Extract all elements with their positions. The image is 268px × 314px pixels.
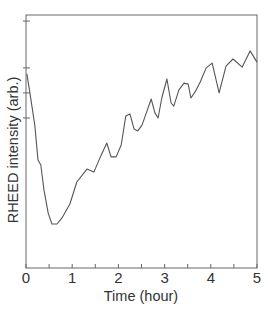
x-axis-tick-labels: 012345 [22, 269, 261, 286]
plot-frame [26, 15, 257, 268]
x-tick-label: 4 [207, 269, 215, 286]
x-tick-label: 2 [114, 269, 122, 286]
x-tick-label: 0 [22, 269, 30, 286]
x-tick-label: 5 [253, 269, 261, 286]
rheed-intensity-line [27, 51, 257, 224]
x-tick-label: 1 [68, 269, 76, 286]
plot-border [26, 15, 257, 268]
x-axis-ticks [26, 264, 257, 268]
x-axis-label: Time (hour) [104, 288, 178, 304]
y-axis-label: RHEED intensity (arb.) [5, 77, 21, 224]
rheed-chart: 012345 Time (hour) RHEED intensity (arb.… [0, 0, 268, 314]
x-tick-label: 3 [160, 269, 168, 286]
